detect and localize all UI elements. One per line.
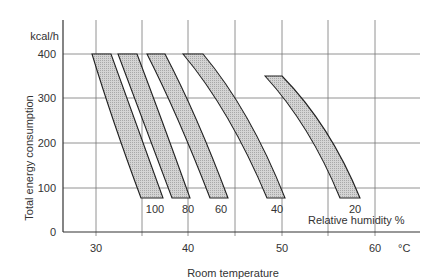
svg-text:60: 60 [215, 203, 227, 215]
svg-text:50: 50 [276, 242, 288, 254]
y-axis-title: Total energy consumption [23, 95, 35, 220]
x-unit-label: °C [398, 242, 410, 254]
svg-text:40: 40 [271, 203, 283, 215]
svg-text:100: 100 [38, 182, 56, 194]
svg-text:0: 0 [50, 226, 56, 238]
svg-text:300: 300 [38, 92, 56, 104]
svg-text:200: 200 [38, 137, 56, 149]
svg-text:80: 80 [182, 203, 194, 215]
x-tick-labels: 30 40 50 60 [90, 242, 381, 254]
y-unit-label: kcal/h [30, 30, 59, 42]
energy-chart: 0 100 200 300 400 kcal/h Total energy co… [0, 0, 441, 280]
svg-text:60: 60 [369, 242, 381, 254]
y-tick-labels: 0 100 200 300 400 [38, 48, 56, 238]
x-axis-title: Room temperature [187, 267, 279, 279]
svg-text:30: 30 [90, 242, 102, 254]
svg-text:40: 40 [182, 242, 194, 254]
humidity-bands [92, 54, 360, 198]
svg-text:400: 400 [38, 48, 56, 60]
band-20 [265, 76, 360, 198]
svg-text:100: 100 [146, 203, 164, 215]
legend-title: Relative humidity % [308, 214, 405, 226]
